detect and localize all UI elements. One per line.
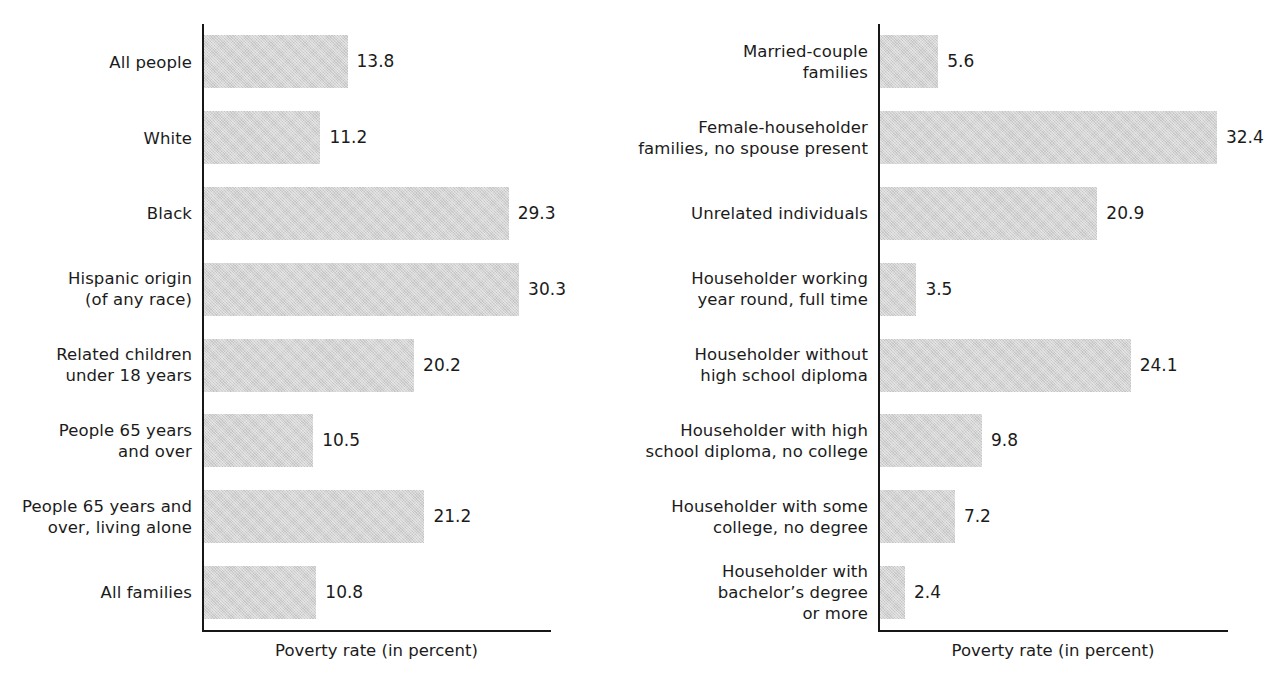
category-label: Householder without high school diploma [608,344,868,386]
bar-and-value: 3.5 [880,251,952,327]
category-label: Female-householder families, no spouse p… [608,117,868,159]
category-label: All families [7,582,192,603]
bar-and-value: 10.8 [204,555,363,631]
category-label: Householder with some college, no degree [608,496,868,538]
category-label: People 65 years and over [7,420,192,462]
bar-and-value: 29.3 [204,176,556,252]
bar-value-label: 30.3 [528,281,566,298]
bar-and-value: 10.5 [204,403,360,479]
bar-row: All families10.8 [0,555,600,631]
bar-row: Hispanic origin (of any race)30.3 [0,251,600,327]
bar-row: White11.2 [0,100,600,176]
bar [204,490,424,543]
bar-value-label: 10.8 [325,584,363,601]
category-label: Hispanic origin (of any race) [7,268,192,310]
bar-row: Unrelated individuals20.9 [600,176,1281,252]
poverty-rate-figure: All people13.8White11.2Black29.3Hispanic… [0,0,1281,679]
bar-and-value: 20.9 [880,176,1144,252]
bar-value-label: 3.5 [925,281,952,298]
bar-row: Related children under 18 years20.2 [0,327,600,403]
bar-row: People 65 years and over, living alone21… [0,479,600,555]
bar [880,263,916,316]
category-label: White [7,127,192,148]
bar-and-value: 2.4 [880,555,941,631]
bar [204,35,348,88]
bar-row: Householder with high school diploma, no… [600,403,1281,479]
bar [204,414,313,467]
bar-value-label: 13.8 [357,53,395,70]
category-label: Householder with high school diploma, no… [608,420,868,462]
bar-and-value: 13.8 [204,24,394,100]
category-label: People 65 years and over, living alone [7,496,192,538]
bar-row: Householder with bachelor’s degree or mo… [600,555,1281,631]
bar-value-label: 29.3 [518,205,556,222]
bar [204,566,316,619]
bar-value-label: 9.8 [991,432,1018,449]
bar-value-label: 32.4 [1226,129,1264,146]
category-label: Householder with bachelor’s degree or mo… [608,561,868,624]
bar-and-value: 30.3 [204,251,566,327]
bar-and-value: 7.2 [880,479,991,555]
bar [880,339,1131,392]
bar-and-value: 21.2 [204,479,471,555]
bar-row: Householder without high school diploma2… [600,327,1281,403]
bar [204,263,519,316]
x-axis-title-left: Poverty rate (in percent) [202,641,551,661]
bar-row: All people13.8 [0,24,600,100]
bar-value-label: 21.2 [433,508,471,525]
bar [880,490,955,543]
bar-value-label: 10.5 [322,432,360,449]
category-label: Related children under 18 years [7,344,192,386]
bar-row: Female-householder families, no spouse p… [600,100,1281,176]
bar-row: Black29.3 [0,176,600,252]
bar-value-label: 7.2 [964,508,991,525]
bar-and-value: 32.4 [880,100,1264,176]
category-label: Black [7,203,192,224]
bar-value-label: 24.1 [1140,357,1178,374]
category-label: All people [7,51,192,72]
bar [880,414,982,467]
bar-row: Householder working year round, full tim… [600,251,1281,327]
bar-value-label: 20.2 [423,357,461,374]
bar-row: Householder with some college, no degree… [600,479,1281,555]
chart-panel-right: Married-couple families5.6Female-househo… [600,0,1281,679]
chart-panel-left: All people13.8White11.2Black29.3Hispanic… [0,0,600,679]
bar-and-value: 5.6 [880,24,974,100]
bar-and-value: 11.2 [204,100,367,176]
bar-rows-right: Married-couple families5.6Female-househo… [600,24,1281,630]
category-label: Unrelated individuals [608,203,868,224]
bar-and-value: 9.8 [880,403,1018,479]
bar [880,35,938,88]
bar [204,339,414,392]
category-label: Householder working year round, full tim… [608,268,868,310]
bar-value-label: 2.4 [914,584,941,601]
bar [880,187,1097,240]
bar-row: People 65 years and over10.5 [0,403,600,479]
bar-and-value: 24.1 [880,327,1177,403]
bar [204,111,320,164]
bar-and-value: 20.2 [204,327,461,403]
bar [204,187,509,240]
bar-rows-left: All people13.8White11.2Black29.3Hispanic… [0,24,600,630]
x-axis-title-right: Poverty rate (in percent) [878,641,1228,661]
category-label: Married-couple families [608,41,868,83]
bar-row: Married-couple families5.6 [600,24,1281,100]
bar [880,566,905,619]
bar-value-label: 11.2 [329,129,367,146]
bar-value-label: 20.9 [1106,205,1144,222]
bar [880,111,1217,164]
bar-value-label: 5.6 [947,53,974,70]
